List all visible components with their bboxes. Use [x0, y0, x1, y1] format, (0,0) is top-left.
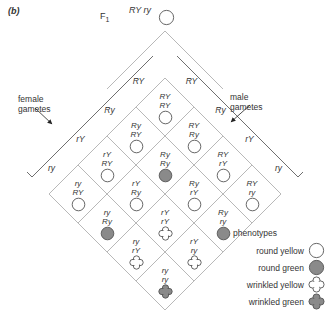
- cell-genotype-bottom: ry: [174, 246, 214, 255]
- punnett-cell-rY-Ry: rYRy: [116, 179, 156, 197]
- cell-genotype-top: RY: [145, 92, 185, 101]
- legend-item-wrinkled-yellow: wrinkled yellow: [228, 276, 325, 293]
- punnett-cell-ry-Ry: ryRy: [87, 208, 127, 226]
- legend-title: phenotypes: [228, 228, 325, 242]
- legend: phenotypes round yellowround greenwrinkl…: [228, 228, 325, 310]
- cell-phenotype-symbol-round-green: [158, 168, 173, 183]
- cell-phenotype-symbol-round-yellow: [129, 139, 144, 154]
- cell-phenotype-symbol-round-yellow: [216, 168, 231, 183]
- cell-phenotype-symbol-wrinkled-yellow: [187, 255, 202, 270]
- legend-symbol-round-yellow: [308, 242, 325, 259]
- punnett-cell-ry-rY: ryrY: [116, 237, 156, 255]
- cell-genotype-bottom: RY: [58, 188, 98, 197]
- punnett-cell-Ry-ry: Ryry: [203, 208, 243, 226]
- cell-genotype-bottom: Ry: [145, 159, 185, 168]
- punnett-cell-rY-ry: rYry: [174, 237, 214, 255]
- legend-item-label: wrinkled yellow: [247, 280, 308, 290]
- cell-genotype-bottom: rY: [116, 246, 156, 255]
- punnett-cell-RY-RY: RYRY: [145, 92, 185, 110]
- cell-genotype-top: Ry: [145, 150, 185, 159]
- cell-genotype-top: Ry: [203, 208, 243, 217]
- legend-item-round-green: round green: [228, 259, 325, 276]
- cell-genotype-bottom: Ry: [116, 188, 156, 197]
- legend-symbol-round-green: [308, 259, 325, 276]
- female-gamete-Ry: Ry: [93, 105, 127, 115]
- legend-item-label: wrinkled green: [249, 297, 308, 307]
- legend-item-wrinkled-green: wrinkled green: [228, 293, 325, 310]
- female-gamete-ry: ry: [35, 163, 69, 173]
- punnett-cell-RY-ry: RYry: [232, 179, 272, 197]
- cell-genotype-bottom: ry: [232, 188, 272, 197]
- punnett-square-figure: (b) F1 RY ry female gametes male gametes…: [0, 0, 325, 327]
- cell-genotype-top: Ry: [116, 121, 156, 130]
- legend-item-round-yellow: round yellow: [228, 242, 325, 259]
- legend-item-label: round yellow: [256, 246, 308, 256]
- male-gamete-Ry: Ry: [204, 105, 238, 115]
- punnett-cell-rY-rY: rYrY: [145, 208, 185, 226]
- cell-genotype-bottom: RY: [145, 101, 185, 110]
- cell-phenotype-symbol-wrinkled-green: [158, 284, 173, 299]
- cell-genotype-top: rY: [116, 179, 156, 188]
- male-gamete-RY: RY: [175, 76, 209, 86]
- cell-genotype-top: rY: [145, 208, 185, 217]
- male-gamete-ry: ry: [262, 163, 296, 173]
- cell-phenotype-symbol-round-yellow: [129, 197, 144, 212]
- cell-phenotype-symbol-wrinkled-yellow: [158, 226, 173, 241]
- cell-genotype-bottom: Ry: [174, 130, 214, 139]
- cell-phenotype-symbol-round-yellow: [187, 197, 202, 212]
- legend-item-label: round green: [258, 263, 308, 273]
- cell-genotype-bottom: rY: [174, 188, 214, 197]
- punnett-cell-RY-rY: RYrY: [203, 150, 243, 168]
- cell-phenotype-symbol-round-green: [100, 226, 115, 241]
- cell-phenotype-symbol-round-yellow: [100, 168, 115, 183]
- punnett-cell-ry-ry: ryry: [145, 266, 185, 284]
- cell-phenotype-symbol-round-yellow: [187, 139, 202, 154]
- cell-genotype-bottom: ry: [145, 275, 185, 284]
- cell-genotype-top: RY: [174, 121, 214, 130]
- cell-genotype-bottom: RY: [87, 159, 127, 168]
- male-gamete-rY: rY: [233, 134, 267, 144]
- cell-phenotype-symbol-round-yellow: [158, 110, 173, 125]
- cell-genotype-bottom: Ry: [87, 217, 127, 226]
- punnett-cell-Ry-RY: RyRY: [116, 121, 156, 139]
- cell-genotype-bottom: ry: [203, 217, 243, 226]
- cell-genotype-bottom: RY: [116, 130, 156, 139]
- punnett-cell-RY-Ry: RYRy: [174, 121, 214, 139]
- cell-genotype-top: RY: [203, 150, 243, 159]
- legend-symbol-wrinkled-yellow: [308, 276, 325, 293]
- cell-genotype-top: rY: [174, 237, 214, 246]
- punnett-cell-Ry-Ry: RyRy: [145, 150, 185, 168]
- cell-genotype-top: ry: [116, 237, 156, 246]
- punnett-cell-rY-RY: rYRY: [87, 150, 127, 168]
- cell-genotype-bottom: rY: [203, 159, 243, 168]
- cell-genotype-top: ry: [145, 266, 185, 275]
- cell-phenotype-symbol-wrinkled-yellow: [129, 255, 144, 270]
- punnett-cell-ry-RY: ryRY: [58, 179, 98, 197]
- cell-phenotype-symbol-round-yellow: [71, 197, 86, 212]
- legend-symbol-wrinkled-green: [308, 293, 325, 310]
- cell-genotype-top: rY: [87, 150, 127, 159]
- female-gamete-RY: RY: [122, 76, 156, 86]
- cell-genotype-bottom: rY: [145, 217, 185, 226]
- cell-genotype-top: ry: [58, 179, 98, 188]
- cell-genotype-top: Ry: [174, 179, 214, 188]
- cell-genotype-top: RY: [232, 179, 272, 188]
- cell-phenotype-symbol-round-yellow: [245, 197, 260, 212]
- cell-genotype-top: ry: [87, 208, 127, 217]
- punnett-cell-Ry-rY: RyrY: [174, 179, 214, 197]
- female-gamete-rY: rY: [64, 134, 98, 144]
